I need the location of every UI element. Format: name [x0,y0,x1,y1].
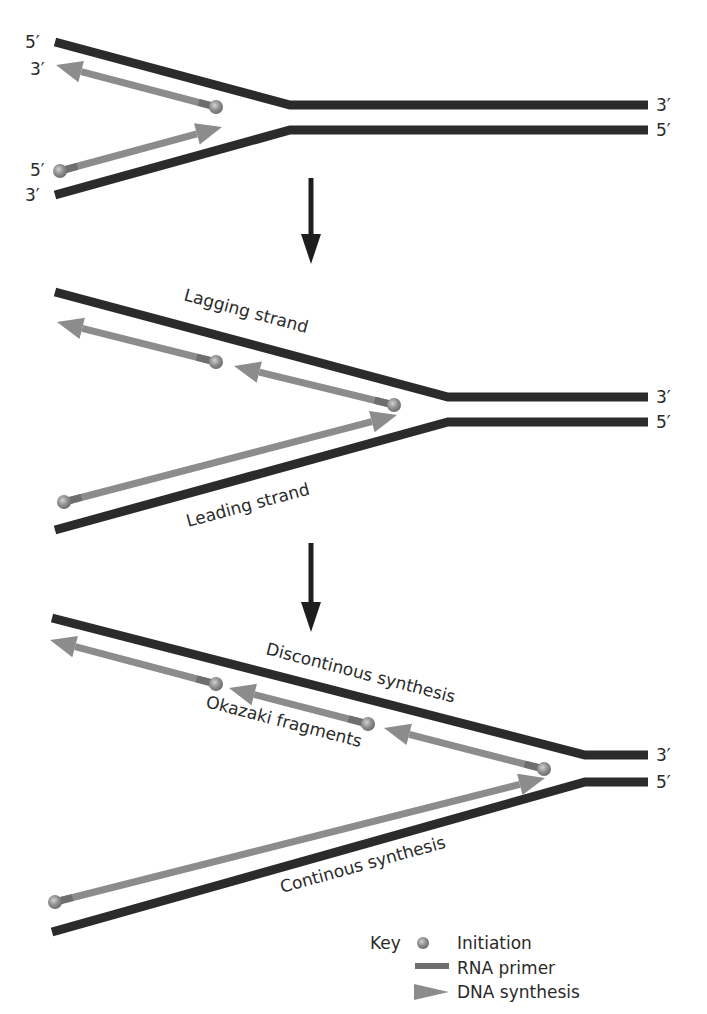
strand-end-label: 5′ [25,32,40,52]
dna-synthesis-shaft [64,422,372,502]
bottom-parental-strand [55,130,648,195]
initiation-icon [417,937,429,949]
strand-end-label: 5′ [30,160,45,180]
panel-2-elongation: 3′5′Lagging strandLeading strand [55,285,671,531]
initiation-icon [53,164,67,178]
dna-synthesis-arrowhead [194,123,222,144]
strand-end-label: 3′ [656,95,671,115]
dna-synthesis-arrowhead [384,724,412,745]
strand-end-label: 5′ [656,412,671,432]
initiation-icon [537,762,551,776]
legend-dna-synthesis-label: DNA synthesis [457,982,580,1002]
panel-1-initiation: 3′5′5′3′3′5′ [25,32,671,205]
initiation-icon [209,677,223,691]
okazaki-fragment-3 [384,724,551,776]
diagram-canvas: 3′5′5′3′3′5′3′5′Lagging strandLeading st… [0,0,707,1014]
initiation-icon [48,895,62,909]
initiation-icon [57,495,71,509]
initiation-icon [209,100,223,114]
panel-3-synthesis: 3′5′Discontinous synthesisOkazaki fragme… [48,618,671,932]
dna-synthesis-arrowhead [234,361,262,382]
bottom-parental-strand [55,422,648,530]
dna-synthesis-arrowhead [50,636,78,657]
legend-initiation-label: Initiation [457,933,532,953]
dna-synthesis-arrow-icon [414,984,449,1000]
top-parental-strand [55,42,648,105]
legend: Key Initiation RNA primer DNA synthesis [370,933,580,1002]
strand-end-label: 3′ [656,745,671,765]
initiation-icon [387,398,401,412]
dna-replication-diagram: 3′5′5′3′3′5′3′5′Lagging strandLeading st… [0,0,707,1014]
step-arrow-2 [301,543,321,632]
strand-end-label: 3′ [656,387,671,407]
leading-strand [57,411,397,509]
process-arrows [301,178,321,632]
strand-end-label: 5′ [656,772,671,792]
down-arrow-icon [301,234,321,264]
dna-synthesis-arrowhead [369,411,397,432]
initiation-icon [209,355,223,369]
rna-primer-icon [415,963,449,969]
step-arrow-1 [301,178,321,264]
initiation-icon [361,717,375,731]
legend-rna-primer-label: RNA primer [457,958,555,978]
lagging-fragment-1 [57,318,223,369]
dna-synthesis-arrowhead [57,318,85,339]
strand-end-label: 3′ [25,185,40,205]
replication-panels: 3′5′5′3′3′5′3′5′Lagging strandLeading st… [25,32,671,932]
strand-end-label: 3′ [30,59,45,79]
dna-synthesis-arrowhead [56,61,84,82]
strand-end-label: 5′ [656,120,671,140]
down-arrow-icon [301,602,321,632]
legend-title: Key [370,933,401,953]
lagging-fragment-2 [234,361,401,412]
